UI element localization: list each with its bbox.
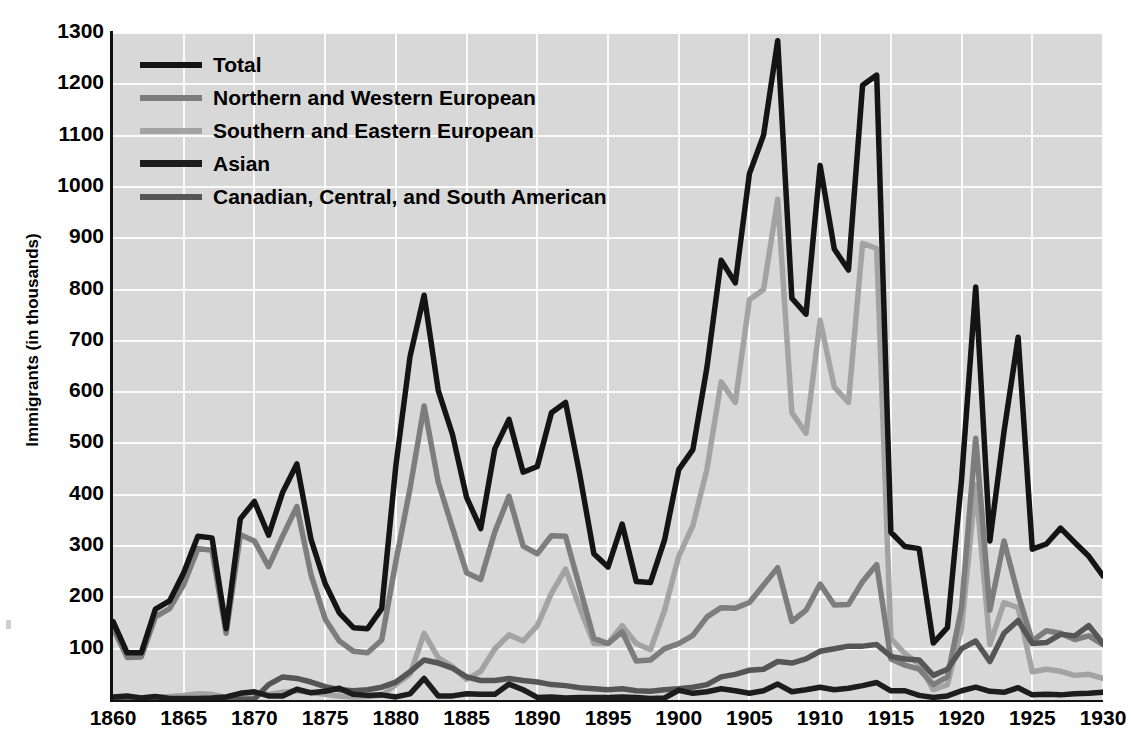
y-tick-100: 100 <box>0 635 104 659</box>
y-tick-1200: 1200 <box>0 70 104 94</box>
legend-swatch-icon <box>140 62 202 68</box>
legend-label: Canadian, Central, and South American <box>213 186 607 207</box>
x-tick-1900: 1900 <box>639 706 719 730</box>
y-tick-1100: 1100 <box>0 122 104 146</box>
x-tick-1890: 1890 <box>497 706 577 730</box>
legend-item-northern-and-western-european: Northern and Western European <box>140 81 607 114</box>
y-tick-200: 200 <box>0 583 104 607</box>
legend-label: Total <box>213 54 262 75</box>
legend-item-southern-and-eastern-european: Southern and Eastern European <box>140 114 607 147</box>
x-tick-1875: 1875 <box>285 706 365 730</box>
x-tick-1925: 1925 <box>992 706 1072 730</box>
legend-label: Asian <box>213 153 270 174</box>
y-tick-600: 600 <box>0 378 104 402</box>
legend-item-asian: Asian <box>140 147 607 180</box>
x-tick-1870: 1870 <box>214 706 294 730</box>
y-tick-500: 500 <box>0 429 104 453</box>
legend-swatch-icon <box>140 95 202 101</box>
y-tick-800: 800 <box>0 276 104 300</box>
x-tick-1915: 1915 <box>851 706 931 730</box>
y-tick-700: 700 <box>0 327 104 351</box>
x-tick-1880: 1880 <box>356 706 436 730</box>
legend-item-canadian-central-and-south-american: Canadian, Central, and South American <box>140 180 607 213</box>
legend-label: Northern and Western European <box>213 87 536 108</box>
x-tick-1920: 1920 <box>922 706 1002 730</box>
legend-swatch-icon <box>140 194 202 200</box>
x-tick-1895: 1895 <box>568 706 648 730</box>
edge-speck <box>6 620 11 629</box>
x-tick-1910: 1910 <box>780 706 860 730</box>
x-tick-1905: 1905 <box>709 706 789 730</box>
y-tick-300: 300 <box>0 532 104 556</box>
legend-label: Southern and Eastern European <box>213 120 534 141</box>
y-tick-1000: 1000 <box>0 173 104 197</box>
legend-swatch-icon <box>140 128 202 134</box>
y-tick-400: 400 <box>0 481 104 505</box>
x-tick-1865: 1865 <box>144 706 224 730</box>
series-line-southern-and-eastern-european <box>113 199 1103 698</box>
x-tick-1930: 1930 <box>1063 706 1131 730</box>
legend-swatch-icon <box>140 160 202 167</box>
x-tick-1885: 1885 <box>427 706 507 730</box>
legend-item-total: Total <box>140 48 607 81</box>
y-tick-900: 900 <box>0 224 104 248</box>
legend: TotalNorthern and Western EuropeanSouthe… <box>140 48 607 213</box>
x-tick-1860: 1860 <box>73 706 153 730</box>
y-tick-1300: 1300 <box>0 19 104 43</box>
